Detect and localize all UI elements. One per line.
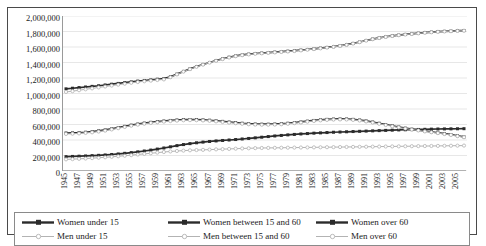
y-axis-tick: 1,000,000 xyxy=(26,92,60,101)
legend-swatch-icon xyxy=(21,218,55,227)
x-axis-tick: 2005 xyxy=(452,173,460,189)
y-axis-tick: 200,000 xyxy=(32,154,60,163)
legend-label: Men under 15 xyxy=(57,231,108,242)
legend-item[interactable]: Women under 15 xyxy=(21,217,119,228)
x-axis-tick: 1971 xyxy=(231,173,239,189)
legend-label: Women over 60 xyxy=(351,217,408,228)
y-axis-tick: 400,000 xyxy=(32,138,60,147)
x-axis-labels: 1945194719491951195319551957195919611963… xyxy=(62,172,466,214)
x-axis-tick: 1997 xyxy=(400,173,408,189)
legend-swatch-icon xyxy=(315,232,349,241)
series-0 xyxy=(65,127,466,158)
legend-swatch-icon xyxy=(21,232,55,241)
chart-area: 2,000,0001,800,0001,600,0001,400,0001,20… xyxy=(8,8,478,236)
legend-swatch-icon xyxy=(167,232,201,241)
legend-item[interactable]: Men between 15 and 60 xyxy=(167,231,289,242)
x-axis-tick: 1999 xyxy=(413,173,421,189)
x-axis-tick: 1965 xyxy=(191,173,199,189)
y-axis-labels: 2,000,0001,800,0001,600,0001,400,0001,20… xyxy=(8,18,62,178)
x-axis-tick: 1945 xyxy=(61,173,69,189)
legend-label: Women between 15 and 60 xyxy=(203,217,301,228)
legend-swatch-icon xyxy=(167,218,201,227)
plot-region xyxy=(62,16,466,171)
legend-item[interactable]: Women over 60 xyxy=(315,217,408,228)
x-axis-tick: 2001 xyxy=(426,173,434,189)
series-canvas xyxy=(63,16,467,171)
x-axis-tick: 1991 xyxy=(361,173,369,189)
y-axis-tick: 2,000,000 xyxy=(26,14,60,23)
y-axis-tick: 600,000 xyxy=(32,123,60,132)
x-axis-tick: 1973 xyxy=(244,173,252,189)
x-axis-tick: 1987 xyxy=(335,173,343,189)
y-axis-tick: 800,000 xyxy=(32,107,60,116)
x-axis-tick: 1953 xyxy=(113,173,121,189)
x-axis-tick: 1967 xyxy=(205,173,213,189)
x-axis-tick: 1981 xyxy=(296,173,304,189)
legend-label: Men over 60 xyxy=(351,231,397,242)
y-axis-tick: 1,400,000 xyxy=(26,61,60,70)
legend-item[interactable]: Men over 60 xyxy=(315,231,397,242)
x-axis-tick: 1983 xyxy=(309,173,317,189)
x-axis-tick: 1959 xyxy=(152,173,160,189)
legend-item[interactable]: Women between 15 and 60 xyxy=(167,217,301,228)
x-axis-tick: 1977 xyxy=(270,173,278,189)
y-axis-tick: 1,800,000 xyxy=(26,30,60,39)
legend-item[interactable]: Men under 15 xyxy=(21,231,108,242)
x-axis-tick: 2003 xyxy=(439,173,447,189)
x-axis-tick: 1975 xyxy=(257,173,265,189)
legend-label: Men between 15 and 60 xyxy=(203,231,289,242)
x-axis-tick: 1949 xyxy=(87,173,95,189)
x-axis-tick: 1993 xyxy=(374,173,382,189)
chart-legend: Women under 15Women between 15 and 60Wom… xyxy=(14,212,470,246)
x-axis-tick: 1989 xyxy=(348,173,356,189)
x-axis-tick: 1985 xyxy=(322,173,330,189)
legend-swatch-icon xyxy=(315,218,349,227)
y-axis-tick: 1,200,000 xyxy=(26,76,60,85)
x-axis-tick: 1979 xyxy=(283,173,291,189)
x-axis-tick: 1947 xyxy=(74,173,82,189)
x-axis-tick: 1957 xyxy=(139,173,147,189)
series-4 xyxy=(64,29,465,93)
x-axis-tick: 1951 xyxy=(100,173,108,189)
x-axis-tick: 1963 xyxy=(178,173,186,189)
legend-label: Women under 15 xyxy=(57,217,119,228)
x-axis-tick: 1995 xyxy=(387,173,395,189)
series-3 xyxy=(64,118,465,139)
x-axis-tick: 1969 xyxy=(218,173,226,189)
x-axis-tick: 1961 xyxy=(165,173,173,189)
y-axis-tick: 1,600,000 xyxy=(26,45,60,54)
series-1 xyxy=(65,29,466,90)
x-axis-tick: 1955 xyxy=(126,173,134,189)
chart-frame: 2,000,0001,800,0001,600,0001,400,0001,20… xyxy=(7,7,477,235)
